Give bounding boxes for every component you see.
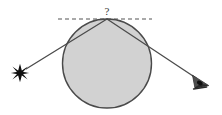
eye-icon — [193, 75, 209, 89]
diagram-canvas: ? — [0, 0, 222, 115]
diagram-figure: ? — [0, 0, 222, 115]
massive-body-circle — [63, 19, 152, 108]
apex-question-label: ? — [105, 5, 110, 17]
star-icon — [11, 64, 29, 82]
